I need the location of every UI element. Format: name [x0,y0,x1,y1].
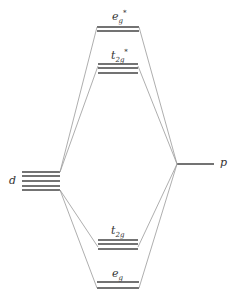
label-eg: eg [112,268,123,282]
mo-diagram: eg* t2g* t2g eg d p [0,0,233,300]
label-d: d [9,175,16,186]
label-t2g: t2g [111,225,124,239]
label-t2g-star: t2g* [111,49,128,64]
t2g-levels [98,240,138,249]
t2g-star-levels [98,64,138,73]
eg-levels [97,282,139,288]
label-p: p [220,157,227,168]
diagram-lines [0,0,233,300]
d-levels [22,172,60,190]
eg-star-levels [97,27,139,31]
label-eg-star: eg* [112,10,127,25]
